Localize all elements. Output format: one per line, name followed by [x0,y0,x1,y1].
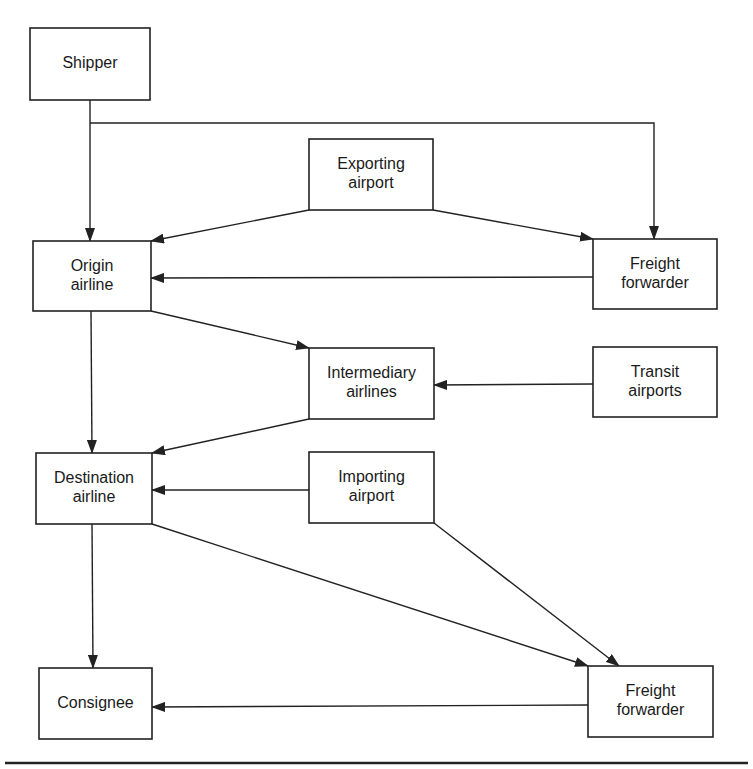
arrow-intermediary-airlines-to-destination-airline [152,419,309,453]
node-consignee: Consignee [39,668,152,739]
node-label: Freight [630,255,680,272]
arrow-freight-forwarder-origin-to-origin-airline [151,277,593,278]
arrow-origin-airline-to-destination-airline [91,311,92,453]
node-label: airport [348,174,394,191]
node-label: Transit [631,363,680,380]
arrow-transit-airports-to-intermediary-airlines [434,384,593,385]
arrow-destination-airline-to-consignee [92,524,93,668]
node-intermediary-airlines: Intermediaryairlines [309,348,434,419]
node-origin-airline: Originairline [33,241,151,311]
node-freight-forwarder-origin: Freightforwarder [593,239,717,309]
arrow-origin-airline-to-intermediary-airlines [151,311,309,348]
node-label: Exporting [337,155,405,172]
node-label: Origin [71,257,114,274]
node-label: Importing [338,468,405,485]
node-label: Shipper [62,54,118,71]
node-label: airlines [346,383,397,400]
arrow-destination-airline-to-freight-forwarder-destination [152,524,588,666]
node-importing-airport: Importingairport [309,452,434,523]
node-label: airline [73,488,116,505]
node-label: Freight [626,682,676,699]
nodes-layer: ShipperExportingairportFreightforwarderO… [30,28,717,739]
arrow-freight-forwarder-destination-to-consignee [152,705,588,707]
node-transit-airports: Transitairports [593,347,717,417]
node-label: airport [349,487,395,504]
node-freight-forwarder-destination: Freightforwarder [588,666,713,737]
node-label: airline [71,276,114,293]
node-label: Intermediary [327,364,416,381]
node-label: forwarder [617,701,685,718]
arrow-exporting-airport-to-freight-forwarder-origin [433,210,593,239]
node-exporting-airport: Exportingairport [309,139,433,210]
air-cargo-flow-diagram: ShipperExportingairportFreightforwarderO… [0,0,753,769]
node-label: Consignee [57,694,134,711]
arrow-exporting-airport-to-origin-airline [151,210,309,241]
node-label: forwarder [621,274,689,291]
node-label: Destination [54,469,134,486]
arrow-importing-airport-to-freight-forwarder-destination [434,523,619,666]
node-destination-airline: Destinationairline [36,453,152,524]
node-shipper: Shipper [30,28,150,100]
node-label: airports [628,382,681,399]
